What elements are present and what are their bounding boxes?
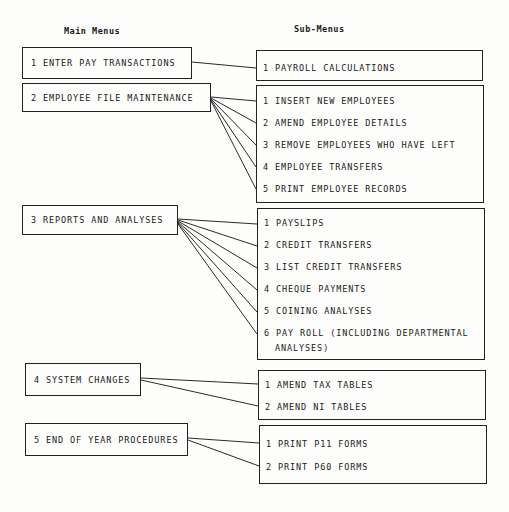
main-menu-reports-and-analyses[interactable]: 3 REPORTS AND ANALYSES (22, 205, 178, 235)
sub-menu-item[interactable]: 1 AMEND TAX TABLES (265, 379, 373, 392)
sub-menu-item[interactable]: 1 PRINT P11 FORMS (266, 438, 368, 451)
sub-menu-item[interactable]: 3 REMOVE EMPLOYEES WHO HAVE LEFT (263, 139, 456, 152)
main-menu-end-of-year-procedures[interactable]: 5 END OF YEAR PROCEDURES (25, 423, 188, 456)
sub-menu-reports: 1 PAYSLIPS 2 CREDIT TRANSFERS 3 LIST CRE… (257, 208, 485, 360)
sub-menu-item-continuation: ANALYSES) (275, 342, 329, 355)
sub-menu-item[interactable]: 4 CHEQUE PAYMENTS (264, 283, 366, 296)
main-menu-label: 1 ENTER PAY TRANSACTIONS (31, 58, 175, 68)
main-menu-system-changes[interactable]: 4 SYSTEM CHANGES (25, 363, 141, 396)
sub-menu-item[interactable]: 1 PAYROLL CALCULATIONS (263, 62, 395, 75)
sub-menu-item[interactable]: 2 AMEND NI TABLES (265, 401, 367, 414)
sub-menu-item[interactable]: 1 INSERT NEW EMPLOYEES (263, 95, 395, 108)
main-menu-enter-pay-transactions[interactable]: 1 ENTER PAY TRANSACTIONS (22, 47, 192, 79)
sub-menu-item[interactable]: 2 CREDIT TRANSFERS (264, 239, 372, 252)
sub-menu-end-of-year: 1 PRINT P11 FORMS 2 PRINT P60 FORMS (259, 425, 487, 484)
sub-menu-employee-file: 1 INSERT NEW EMPLOYEES 2 AMEND EMPLOYEE … (256, 85, 484, 203)
main-menu-employee-file-maintenance[interactable]: 2 EMPLOYEE FILE MAINTENANCE (22, 83, 211, 112)
sub-menu-item[interactable]: 3 LIST CREDIT TRANSFERS (264, 261, 402, 274)
sub-menu-item[interactable]: 2 PRINT P60 FORMS (266, 461, 368, 474)
sub-menu-system-changes: 1 AMEND TAX TABLES 2 AMEND NI TABLES (258, 370, 486, 420)
sub-menu-item[interactable]: 1 PAYSLIPS (264, 217, 324, 230)
sub-menu-item[interactable]: 4 EMPLOYEE TRANSFERS (263, 161, 383, 174)
main-menu-label: 3 REPORTS AND ANALYSES (31, 215, 163, 225)
sub-menu-item[interactable]: 5 PRINT EMPLOYEE RECORDS (263, 183, 407, 196)
main-menu-label: 2 EMPLOYEE FILE MAINTENANCE (31, 93, 193, 103)
sub-menu-pay-transactions: 1 PAYROLL CALCULATIONS (256, 50, 483, 81)
sub-menu-item[interactable]: 6 PAY ROLL (INCLUDING DEPARTMENTAL (264, 327, 469, 340)
sub-menu-item[interactable]: 5 COINING ANALYSES (264, 305, 372, 318)
main-menu-label: 5 END OF YEAR PROCEDURES (34, 435, 178, 445)
main-menu-label: 4 SYSTEM CHANGES (34, 375, 130, 385)
sub-menu-item[interactable]: 2 AMEND EMPLOYEE DETAILS (263, 117, 407, 130)
